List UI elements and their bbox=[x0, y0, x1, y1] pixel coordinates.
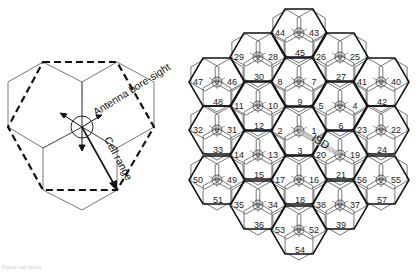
cell-label: 15 bbox=[254, 170, 264, 180]
cell-label: 43 bbox=[309, 28, 319, 38]
cell-label: 50 bbox=[193, 175, 203, 185]
cell-label: 55 bbox=[391, 175, 401, 185]
cell-label: 26 bbox=[316, 52, 326, 62]
nineteen-site-grid: 4443452928302625274746488794140421110125… bbox=[189, 9, 409, 260]
cell-label: 44 bbox=[275, 28, 285, 38]
figure-caption: Figure: cell layout bbox=[2, 264, 41, 270]
cell-label: 14 bbox=[234, 150, 244, 160]
cell-label: 18 bbox=[295, 195, 305, 205]
boresight-arrows-icon bbox=[60, 113, 102, 151]
single-site-diagram: Antenna bore-sight Cell range bbox=[8, 60, 172, 210]
cell-label: 47 bbox=[193, 77, 203, 87]
cell-label: 34 bbox=[268, 200, 278, 210]
cell-label: 3 bbox=[297, 146, 302, 156]
cell-label: 39 bbox=[336, 220, 346, 230]
cell-label: 17 bbox=[275, 175, 285, 185]
cell-hexagon-upper-left bbox=[8, 62, 82, 148]
cell-label: 6 bbox=[338, 121, 343, 131]
cell-label: 19 bbox=[350, 150, 360, 160]
cell-range-label: Cell range bbox=[102, 134, 135, 182]
cell-label: 57 bbox=[377, 195, 387, 205]
cell-label: 20 bbox=[316, 150, 326, 160]
cell-label: 41 bbox=[357, 77, 367, 87]
cell-label: 37 bbox=[350, 200, 360, 210]
cell-label: 40 bbox=[391, 77, 401, 87]
cell-label: 12 bbox=[254, 121, 264, 131]
cell-label: 8 bbox=[277, 77, 282, 87]
cell-label: 35 bbox=[234, 200, 244, 210]
cell-label: 27 bbox=[336, 72, 346, 82]
cell-label: 32 bbox=[193, 125, 203, 135]
cell-label: 7 bbox=[311, 77, 316, 87]
antenna-boresight-label: Antenna bore-sight bbox=[91, 60, 173, 117]
cell-label: 16 bbox=[309, 175, 319, 185]
cell-label: 30 bbox=[254, 72, 264, 82]
cell-label: 25 bbox=[350, 52, 360, 62]
cell-label: 4 bbox=[352, 101, 357, 111]
cell-label: 2 bbox=[277, 126, 282, 136]
cell-label: 29 bbox=[234, 52, 244, 62]
cell-label: 22 bbox=[391, 125, 401, 135]
cell-label: 23 bbox=[357, 125, 367, 135]
cell-label: 52 bbox=[309, 225, 319, 235]
cell-label: 49 bbox=[227, 175, 237, 185]
site: 565557 bbox=[353, 156, 409, 210]
cell-label: 24 bbox=[377, 145, 387, 155]
cell-label: 45 bbox=[295, 48, 305, 58]
cell-label: 21 bbox=[336, 170, 346, 180]
cell-label: 53 bbox=[275, 225, 285, 235]
site: 232224 bbox=[353, 106, 409, 160]
site: 535254 bbox=[271, 206, 327, 260]
site: 383739 bbox=[312, 181, 368, 235]
cell-label: 46 bbox=[227, 77, 237, 87]
cell-label: 28 bbox=[268, 52, 278, 62]
cell-label: 33 bbox=[213, 145, 223, 155]
cell-label: 36 bbox=[254, 220, 264, 230]
cell-label: 38 bbox=[316, 200, 326, 210]
cell-label: 31 bbox=[227, 125, 237, 135]
cell-layout-figure: Antenna bore-sight Cell range 4443452928… bbox=[0, 0, 416, 274]
cell-label: 51 bbox=[213, 195, 223, 205]
cell-label: 56 bbox=[357, 175, 367, 185]
cell-label: 5 bbox=[318, 101, 323, 111]
cell-label: 13 bbox=[268, 150, 278, 160]
cell-label: 54 bbox=[295, 245, 305, 255]
cell-label: 10 bbox=[268, 101, 278, 111]
site: 414042 bbox=[353, 58, 409, 112]
cell-label: 9 bbox=[297, 97, 302, 107]
cell-label: 11 bbox=[234, 101, 243, 111]
